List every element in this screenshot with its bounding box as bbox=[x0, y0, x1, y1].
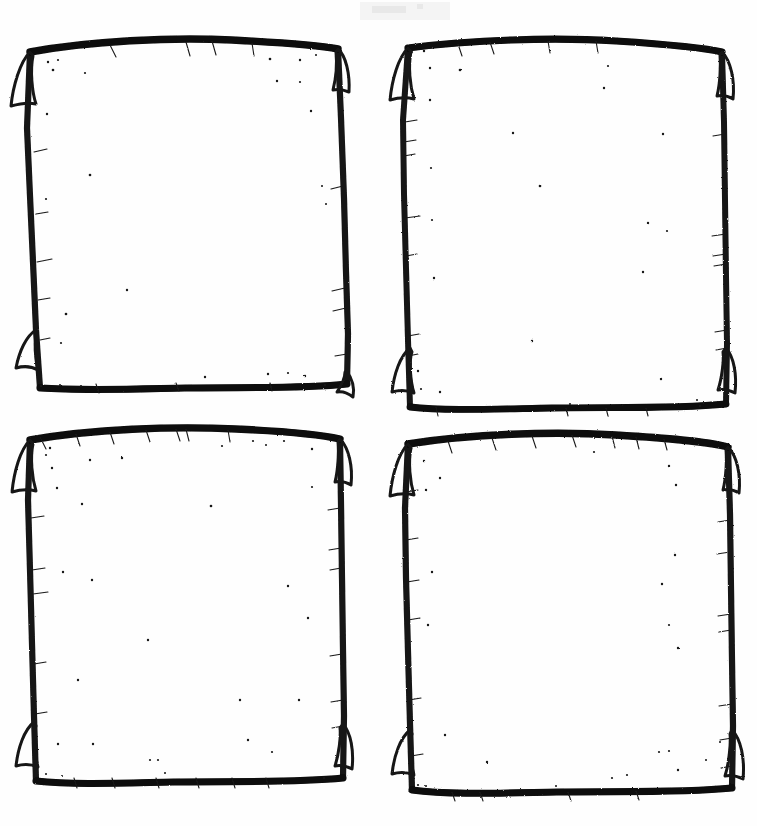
panel-border-outline-accent-bottom bbox=[410, 404, 726, 409]
panel-border-outline bbox=[403, 39, 727, 409]
panel-border-outline bbox=[28, 428, 344, 783]
corner-curl-top-left-icon bbox=[12, 440, 36, 492]
corner-curl-top-left-icon bbox=[390, 444, 414, 496]
scroll-frames-canvas bbox=[0, 0, 757, 826]
panel-border-outline-accent-bottom bbox=[412, 788, 732, 793]
edge-tick-marks bbox=[404, 41, 727, 416]
panel-border-outline-accent bbox=[408, 433, 728, 447]
panel-bottom-left[interactable] bbox=[12, 428, 353, 788]
edge-tick-marks bbox=[406, 435, 732, 801]
ink-speckles bbox=[45, 440, 325, 779]
edge-tick-marks bbox=[34, 41, 347, 393]
panel-border-outline bbox=[405, 433, 733, 793]
edge-tick-marks bbox=[31, 429, 343, 788]
scan-smudge-artifact bbox=[360, 2, 450, 20]
ink-speckles bbox=[40, 54, 327, 387]
panel-border-outline bbox=[27, 39, 348, 390]
panel-border-outline-accent-bottom bbox=[40, 384, 347, 390]
worksheet-page: Hand-drawn Scroll Frames Worksheet bbox=[0, 0, 757, 826]
corner-curl-top-left-icon bbox=[11, 52, 36, 106]
panel-top-left[interactable] bbox=[11, 39, 354, 397]
ink-speckles bbox=[417, 451, 721, 787]
panel-bottom-right[interactable] bbox=[390, 433, 744, 801]
panel-border-outline-accent-bottom bbox=[36, 778, 343, 783]
panel-top-right[interactable] bbox=[390, 39, 736, 416]
panel-border-outline-accent bbox=[30, 39, 338, 52]
panel-border-outline-accent bbox=[408, 39, 722, 52]
ink-speckles bbox=[411, 50, 701, 407]
